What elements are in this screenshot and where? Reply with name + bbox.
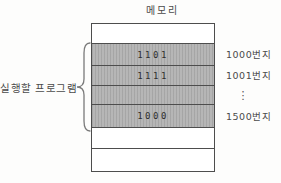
memory-cell: 1111	[92, 66, 214, 86]
memory-cell	[92, 128, 214, 149]
memory-cell: 1101	[92, 44, 214, 66]
address-label: 1000번지	[226, 48, 280, 62]
brace-bracket	[74, 40, 92, 134]
address-label: 1500번지	[226, 110, 280, 124]
address-label: 1001번지	[226, 69, 280, 83]
diagram-title: 메모리	[140, 2, 184, 17]
memory-box: 110111111000	[91, 23, 215, 172]
program-label: 실행할 프로그램	[0, 80, 76, 95]
memory-cell	[92, 24, 214, 44]
memory-cell: 1000	[92, 105, 214, 128]
memory-cell	[92, 149, 214, 171]
memory-diagram: 메모리 실행할 프로그램 110111111000 1000번지1001번지⋮1…	[0, 0, 281, 183]
address-ellipsis: ⋮	[226, 89, 260, 103]
memory-cell	[92, 86, 214, 105]
